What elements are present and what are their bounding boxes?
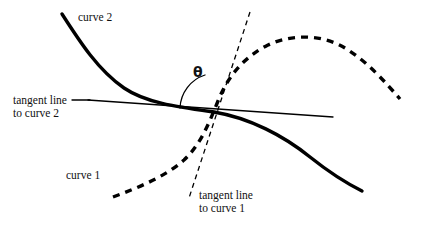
tangent-line-to-curve-1-label-line2: to curve 1 [199, 202, 245, 214]
tangent-line-to-curve-1-label-line1: tangent line [199, 189, 253, 201]
tangent-line-to-curve-2-label-line2: to curve 2 [13, 107, 59, 119]
tangent-line-to-curve-1-label: tangent lineto curve 1 [199, 189, 253, 215]
angle-theta-label: θ [193, 66, 203, 79]
tangent-line-to-curve-2-label: tangent lineto curve 2 [13, 94, 67, 120]
curve-1-label: curve 1 [66, 169, 100, 182]
tangent-line-to-curve-2-label-line1: tangent line [13, 94, 67, 106]
curve-2-label: curve 2 [78, 11, 112, 24]
